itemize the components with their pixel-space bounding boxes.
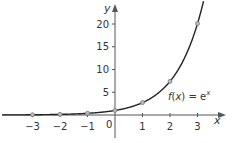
x-tick-label: 2: [167, 121, 173, 132]
y-axis-label: y: [103, 2, 111, 15]
exponential-chart: −3−2−11235101520 y x 0 f(x) = ex: [0, 0, 244, 143]
y-tick-label: 5: [103, 87, 109, 98]
function-label: f(x) = ex: [168, 89, 211, 102]
origin-label: 0: [106, 119, 112, 130]
x-axis-label: x: [213, 114, 221, 127]
x-tick-label: −2: [53, 121, 68, 132]
data-point-marker: [31, 113, 35, 117]
data-point-marker: [58, 112, 62, 116]
x-tick-label: 1: [139, 121, 145, 132]
y-tick-label: 15: [96, 41, 109, 52]
data-point-marker: [196, 22, 200, 26]
y-tick-label: 10: [96, 64, 109, 75]
x-tick-label: −1: [80, 121, 95, 132]
data-point-marker: [86, 111, 90, 115]
chart-canvas: −3−2−11235101520 y x 0 f(x) = ex: [0, 0, 244, 143]
func-exp: x: [205, 89, 211, 97]
func-eq: = e: [185, 91, 206, 102]
data-point-marker: [168, 79, 172, 83]
x-tick-label: −3: [25, 121, 40, 132]
data-point-marker: [113, 108, 117, 112]
y-axis-arrow-icon: [112, 4, 118, 12]
x-tick-label: 3: [194, 121, 200, 132]
data-point-marker: [141, 101, 145, 105]
y-tick-label: 20: [96, 19, 109, 30]
